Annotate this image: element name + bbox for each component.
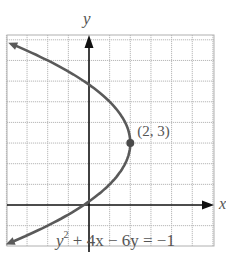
equation-rest: + 4x − 6y = −1 bbox=[69, 231, 175, 250]
grid bbox=[6, 35, 214, 246]
x-axis-label: x bbox=[218, 195, 226, 212]
vertex-label: (2, 3) bbox=[137, 123, 170, 140]
x-axis-arrow-icon bbox=[202, 201, 214, 210]
equation-bg bbox=[52, 229, 53, 230]
y-axis-arrow-icon bbox=[85, 35, 94, 48]
y-axis-label: y bbox=[81, 9, 91, 28]
vertex-point bbox=[126, 139, 134, 147]
equation-label: y2 + 4x − 6y = −1 bbox=[54, 229, 175, 250]
parabola-chart: (2, 3) y x y2 + 4x − 6y = −1 bbox=[0, 0, 226, 262]
parabola-curve bbox=[11, 45, 130, 242]
equation-y: y bbox=[54, 231, 64, 250]
plot-border bbox=[7, 35, 214, 246]
